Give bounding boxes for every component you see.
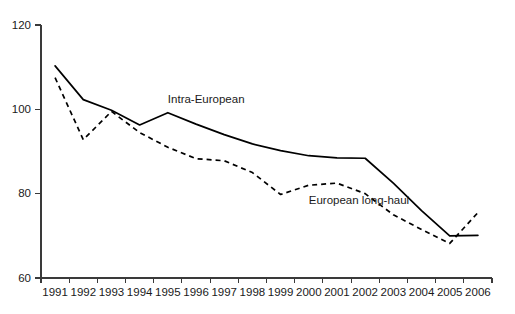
x-tick-label-2000: 2000: [296, 286, 322, 298]
x-tick-label-1996: 1996: [183, 286, 209, 298]
european-long-haul-label: European long-haul: [309, 194, 409, 206]
x-tick-label-1993: 1993: [99, 286, 125, 298]
data-series-group: [55, 66, 478, 244]
x-tick-label-2005: 2005: [437, 286, 463, 298]
x-tick-marks: [41, 278, 492, 283]
x-tick-label-2004: 2004: [409, 286, 435, 298]
y-tick-label-80: 80: [18, 187, 31, 199]
series-annotations: Intra-EuropeanEuropean long-haul: [168, 93, 409, 206]
y-tick-label-100: 100: [12, 103, 31, 115]
y-tick-marks: [35, 25, 41, 278]
x-tick-label-1999: 1999: [268, 286, 294, 298]
x-tick-label-2001: 2001: [324, 286, 350, 298]
y-tick-label-60: 60: [18, 272, 31, 284]
chart-canvas: 6080100120 19911992199319941995199619971…: [0, 0, 515, 314]
x-tick-label-2003: 2003: [381, 286, 407, 298]
x-tick-label-2002: 2002: [352, 286, 378, 298]
y-tick-label-120: 120: [12, 19, 31, 31]
x-tick-label-1997: 1997: [211, 286, 237, 298]
x-tick-label-1995: 1995: [155, 286, 181, 298]
y-axis: 6080100120: [12, 19, 41, 284]
x-axis: 1991199219931994199519961997199819992000…: [41, 278, 492, 298]
x-tick-label-1994: 1994: [127, 286, 153, 298]
series-line-intra-european: [55, 66, 478, 236]
y-tick-labels: 6080100120: [12, 19, 31, 284]
line-chart: 6080100120 19911992199319941995199619971…: [0, 0, 515, 314]
x-tick-label-1991: 1991: [42, 286, 68, 298]
intra-european-label: Intra-European: [168, 93, 245, 105]
x-tick-label-2006: 2006: [465, 286, 491, 298]
x-tick-label-1998: 1998: [240, 286, 266, 298]
x-tick-label-1992: 1992: [70, 286, 96, 298]
x-tick-labels: 1991199219931994199519961997199819992000…: [42, 286, 490, 298]
series-line-european-long-haul: [55, 78, 478, 244]
